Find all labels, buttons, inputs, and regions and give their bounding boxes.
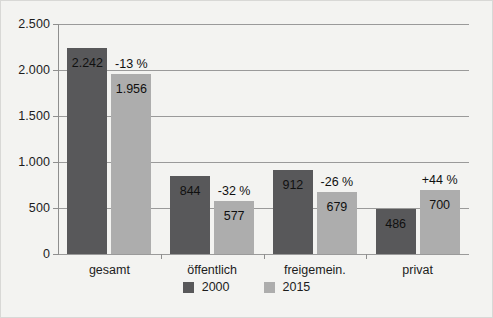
change-annotation: +44 % [420,173,460,187]
x-axis-category-label: gesamt [58,263,161,277]
change-annotation: -32 % [214,184,254,198]
bar-2000-privat[interactable] [376,209,416,254]
bar-value-label: 486 [376,217,416,231]
x-axis-group-tick [366,254,367,259]
bar-2015-gesamt[interactable] [111,74,151,254]
x-axis-category-label: freigemein. [264,263,367,277]
legend-item-2015[interactable]: 2015 [264,280,311,294]
x-axis-category-label: privat [366,263,469,277]
change-annotation: -13 % [111,57,151,71]
bar-value-label: 577 [214,209,254,223]
x-axis-category-label: öffentlich [161,263,264,277]
bar-chart-figure: 2.5002.0001.5001.0005000 2.2421.956-13 %… [0,0,493,318]
legend-swatch-icon [183,282,194,293]
y-axis-tick-label: 500 [29,201,50,215]
bar-group: 2.2421.956-13 %gesamt [58,24,161,254]
y-axis-tick-label: 1.500 [18,109,50,123]
bar-value-label: 679 [317,200,357,214]
legend-label: 2015 [283,280,311,294]
y-axis-tick-label: 2.500 [18,17,50,31]
bar-value-label: 1.956 [111,82,151,96]
legend-label: 2000 [202,280,230,294]
bar-value-label: 2.242 [67,56,107,70]
y-axis-tick-label: 0 [43,247,50,261]
bar-group: 486700+44 %privat [366,24,469,254]
plot-area: 2.5002.0001.5001.0005000 2.2421.956-13 %… [58,24,469,254]
legend-item-2000[interactable]: 2000 [183,280,230,294]
change-annotation: -26 % [317,175,357,189]
y-axis-tick-label: 1.000 [18,155,50,169]
bar-value-label: 700 [420,198,460,212]
bar-value-label: 844 [170,184,210,198]
y-axis-tick-label: 2.000 [18,63,50,77]
chart-legend: 20002015 [1,280,492,294]
bar-value-label: 912 [273,178,313,192]
x-axis-group-tick [161,254,162,259]
bar-2000-gesamt[interactable] [67,48,107,254]
legend-swatch-icon [264,282,275,293]
bar-group: 912679-26 %freigemein. [264,24,367,254]
x-axis-group-tick [264,254,265,259]
bar-group: 844577-32 %öffentlich [161,24,264,254]
y-tick-mark [53,254,59,255]
